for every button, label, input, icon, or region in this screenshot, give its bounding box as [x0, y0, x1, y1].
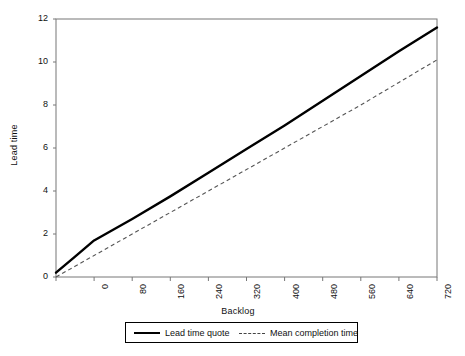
x-tick-label: 480	[329, 284, 339, 324]
x-tick-label: 0	[100, 284, 110, 324]
x-tick-label: 640	[405, 284, 415, 324]
chart-plot-area	[0, 0, 465, 356]
y-tick-label: 8	[26, 99, 48, 109]
chart-legend: Lead time quote Mean completion time	[125, 322, 358, 343]
y-tick-label: 0	[26, 271, 48, 281]
legend-item-lead-time-quote: Lead time quote	[134, 326, 230, 340]
x-tick-label: 720	[443, 284, 453, 324]
x-axis-ticks	[56, 277, 437, 281]
x-tick-label: 320	[252, 284, 262, 324]
y-axis-title: Lead time	[9, 115, 19, 175]
x-tick-label: 400	[291, 284, 301, 324]
x-tick-label: 80	[138, 284, 148, 324]
x-tick-label: 560	[367, 284, 377, 324]
x-tick-label: 160	[176, 284, 186, 324]
y-tick-label: 10	[26, 56, 48, 66]
x-axis-title: Backlog	[198, 306, 278, 316]
legend-swatch-solid-line-icon	[134, 329, 160, 337]
legend-swatch-dashed-line-icon	[239, 329, 265, 337]
y-tick-label: 4	[26, 185, 48, 195]
y-tick-label: 2	[26, 228, 48, 238]
legend-label: Lead time quote	[165, 328, 230, 338]
y-tick-label: 6	[26, 142, 48, 152]
legend-label: Mean completion time	[270, 328, 358, 338]
chart-figure: 024681012 080160240320400480560640720800…	[0, 0, 465, 356]
y-tick-label: 12	[26, 13, 48, 23]
x-tick-label: 240	[214, 284, 224, 324]
legend-item-mean-completion-time: Mean completion time	[239, 326, 358, 340]
